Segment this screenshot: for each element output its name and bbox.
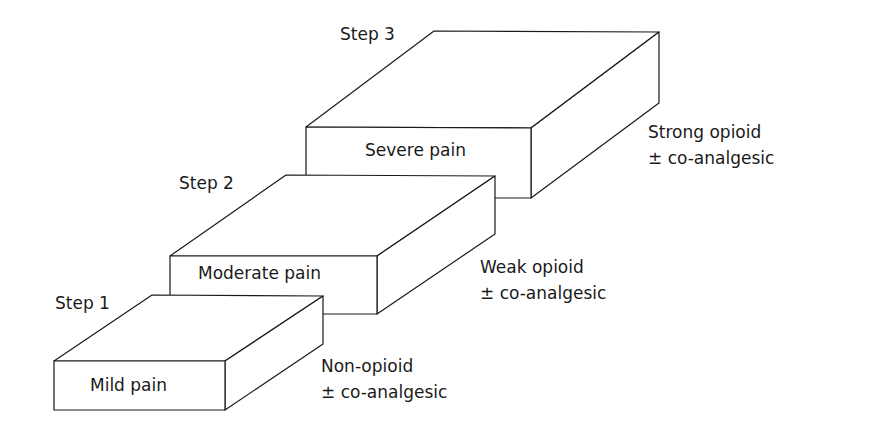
step-2-box-label: Moderate pain xyxy=(198,262,321,284)
step-2-treatment-line1: Weak opioid xyxy=(480,256,584,278)
step-3-box xyxy=(306,31,659,198)
step-1-box-label: Mild pain xyxy=(90,374,167,396)
step-3-treatment-line1: Strong opioid xyxy=(648,121,761,143)
step-2-treatment-line2: ± co-analgesic xyxy=(480,282,606,304)
step-2-box xyxy=(170,175,495,314)
staircase-diagram xyxy=(0,0,869,432)
step-1-treatment-line2: ± co-analgesic xyxy=(321,381,447,403)
step-3-treatment-line2: ± co-analgesic xyxy=(648,147,774,169)
step-3-label: Step 3 xyxy=(340,23,395,45)
step-1-treatment-line1: Non-opioid xyxy=(321,355,413,377)
step-2-label: Step 2 xyxy=(179,172,234,194)
step-1-label: Step 1 xyxy=(55,292,110,314)
step-3-box-label: Severe pain xyxy=(365,139,466,161)
